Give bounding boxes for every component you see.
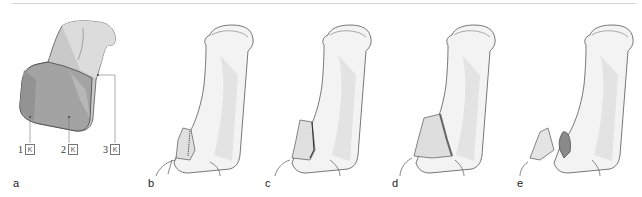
tooth-symbol-icon: K: [110, 144, 120, 155]
panel-c-tooth: [275, 25, 371, 176]
panel-label-e: e: [517, 177, 523, 189]
callout-1: 1 K: [18, 144, 35, 155]
callout-2: 2 K: [61, 144, 78, 155]
callout-2-number: 2: [61, 144, 66, 155]
panel-a-tooth: [20, 21, 115, 143]
panel-label-c: c: [265, 177, 271, 189]
panel-label-d: d: [392, 177, 398, 189]
panel-e-tooth: [520, 25, 633, 176]
panel-b-tooth: [156, 25, 253, 176]
panel-label-b: b: [148, 177, 154, 189]
callout-1-number: 1: [18, 144, 23, 155]
tooth-symbol-icon: K: [68, 144, 78, 155]
panel-label-a: a: [13, 177, 19, 189]
callout-3-number: 3: [103, 144, 108, 155]
tooth-symbol-icon: K: [25, 144, 35, 155]
callout-3: 3 K: [103, 144, 120, 155]
tooth-illustration: [0, 0, 642, 197]
panel-d-tooth: [400, 25, 495, 176]
